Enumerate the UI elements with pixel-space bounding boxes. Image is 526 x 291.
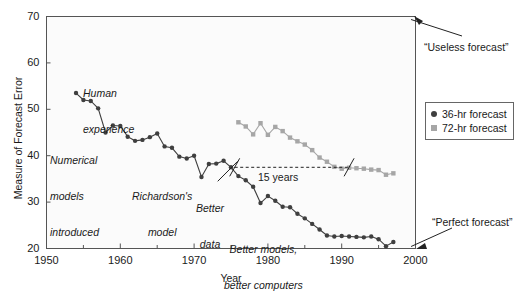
- y-axis-title: Measure of Forecast Error: [12, 63, 24, 213]
- data-point-36hr: [221, 159, 225, 163]
- data-point-36hr: [376, 237, 380, 241]
- annotation-line: Numerical: [50, 154, 99, 166]
- y-tick-label: 20: [14, 242, 40, 254]
- data-point-36hr: [295, 212, 299, 216]
- data-point-36hr: [258, 201, 262, 205]
- annotation-line: data: [196, 238, 224, 250]
- data-point-72hr: [280, 129, 284, 133]
- data-point-36hr: [185, 156, 189, 160]
- data-point-72hr: [244, 124, 248, 128]
- annotation-fifteen-years: 15 years: [258, 171, 298, 183]
- data-point-36hr: [280, 205, 284, 209]
- annotation-line: models: [50, 190, 99, 202]
- data-point-36hr: [325, 233, 329, 237]
- data-point-36hr: [266, 194, 270, 198]
- data-point-36hr: [340, 234, 344, 238]
- legend-circle-marker-icon: [431, 111, 437, 117]
- data-point-36hr: [162, 144, 166, 148]
- annotation-line: introduced: [50, 226, 99, 238]
- data-point-36hr: [155, 131, 159, 135]
- figure-container: 203040506070 195019601970198019902000 Me…: [0, 0, 526, 291]
- legend-item[interactable]: 36-hr forecast: [431, 107, 508, 121]
- data-point-36hr: [214, 161, 218, 165]
- data-point-72hr: [376, 168, 380, 172]
- annotation-perfect-forecast: “Perfect forecast”: [432, 216, 513, 228]
- data-point-36hr: [251, 185, 255, 189]
- data-point-36hr: [192, 154, 196, 158]
- data-point-72hr: [325, 160, 329, 164]
- legend-label: 36-hr forecast: [442, 108, 507, 120]
- data-point-36hr: [177, 154, 181, 158]
- data-point-36hr: [354, 235, 358, 239]
- data-point-72hr: [273, 125, 277, 129]
- legend-items: 36-hr forecast72-hr forecast: [431, 107, 508, 135]
- legend-item[interactable]: 72-hr forecast: [431, 121, 508, 135]
- annotation-better-models-computers: Better models, better computers: [224, 219, 303, 291]
- data-point-72hr: [251, 132, 255, 136]
- annotation-line: better computers: [224, 279, 303, 291]
- data-point-72hr: [317, 155, 321, 159]
- x-tick-label: 2000: [398, 254, 434, 266]
- data-point-72hr: [303, 142, 307, 146]
- data-point-36hr: [310, 222, 314, 226]
- annotation-numerical-models: Numerical models introduced: [50, 130, 99, 262]
- data-point-36hr: [236, 174, 240, 178]
- annotation-line: Better models,: [224, 243, 303, 255]
- data-point-72hr: [295, 139, 299, 143]
- data-point-36hr: [273, 199, 277, 203]
- data-point-36hr: [207, 162, 211, 166]
- annotation-better-data: Better data: [196, 178, 224, 274]
- data-point-36hr: [391, 240, 395, 244]
- data-point-36hr: [369, 234, 373, 238]
- data-point-36hr: [303, 216, 307, 220]
- data-point-36hr: [317, 227, 321, 231]
- legend-label: 72-hr forecast: [442, 122, 507, 134]
- data-point-36hr: [332, 234, 336, 238]
- data-point-36hr: [140, 138, 144, 142]
- data-point-72hr: [258, 121, 262, 125]
- data-point-36hr: [362, 235, 366, 239]
- data-point-72hr: [384, 173, 388, 177]
- data-point-72hr: [391, 171, 395, 175]
- annotation-line: model: [132, 226, 192, 238]
- annotation-useless-forecast: “Useless forecast”: [424, 41, 509, 53]
- data-point-36hr: [244, 178, 248, 182]
- data-point-72hr: [288, 135, 292, 139]
- data-point-72hr: [310, 148, 314, 152]
- x-tick-label: 1990: [324, 254, 360, 266]
- data-point-36hr: [288, 205, 292, 209]
- data-point-72hr: [362, 166, 366, 170]
- data-point-36hr: [170, 146, 174, 150]
- legend: 36-hr forecast72-hr forecast: [425, 102, 514, 140]
- data-point-36hr: [74, 91, 78, 95]
- annotation-line: Richardson's: [132, 190, 192, 202]
- annotation-line: Human: [83, 87, 134, 99]
- data-point-72hr: [354, 166, 358, 170]
- data-point-72hr: [266, 133, 270, 137]
- data-point-36hr: [384, 244, 388, 248]
- perfect-forecast-leader: [411, 228, 452, 247]
- y-tick-label: 70: [14, 10, 40, 22]
- legend-square-marker-icon: [431, 125, 437, 131]
- annotation-line: Better: [196, 202, 224, 214]
- data-point-72hr: [369, 167, 373, 171]
- annotation-richardsons-model: Richardson's model: [132, 166, 192, 262]
- data-point-36hr: [347, 234, 351, 238]
- data-point-72hr: [236, 120, 240, 124]
- data-point-36hr: [148, 135, 152, 139]
